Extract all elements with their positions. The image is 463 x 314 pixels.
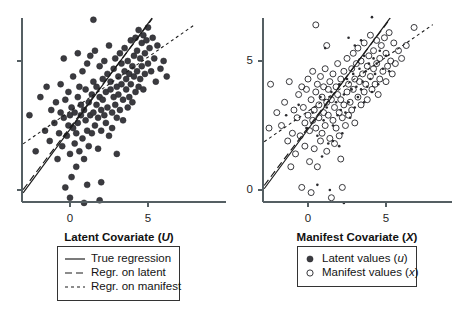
data-point-latent bbox=[51, 120, 57, 126]
left-x-axis-title-suffix: ) bbox=[170, 231, 174, 243]
data-point-latent bbox=[297, 104, 300, 107]
data-point-latent bbox=[324, 47, 327, 50]
data-point-latent bbox=[128, 81, 134, 87]
data-point-latent bbox=[75, 94, 81, 100]
data-point-latent bbox=[125, 58, 131, 64]
data-point-manifest bbox=[322, 66, 328, 72]
data-point-manifest bbox=[350, 50, 356, 56]
data-point-latent bbox=[103, 120, 109, 126]
data-point-latent bbox=[98, 128, 104, 134]
data-point-latent bbox=[378, 49, 381, 52]
data-point-manifest bbox=[313, 125, 319, 131]
data-point-manifest bbox=[268, 81, 274, 87]
data-point-latent bbox=[349, 116, 352, 119]
left-legend-label-regr-on-latent: Regr. on latent bbox=[91, 266, 167, 278]
left-panel: 0 5 Latent Covariate (U) bbox=[17, 17, 226, 243]
data-point-latent bbox=[67, 195, 73, 201]
right-legend-swatch-filled-circle bbox=[307, 256, 313, 262]
data-point-latent bbox=[83, 86, 89, 92]
data-point-manifest bbox=[386, 30, 392, 36]
data-point-latent bbox=[65, 89, 71, 95]
data-point-manifest bbox=[344, 55, 350, 61]
data-point-latent bbox=[101, 112, 107, 118]
data-point-latent bbox=[332, 140, 335, 143]
data-point-manifest bbox=[308, 97, 314, 103]
data-point-latent bbox=[316, 135, 319, 138]
data-point-manifest bbox=[286, 79, 292, 85]
data-point-latent bbox=[385, 55, 388, 58]
scatter-figure: 0 5 Latent Covariate (U) True regression… bbox=[0, 0, 463, 314]
data-point-manifest bbox=[327, 79, 333, 85]
data-point-manifest bbox=[392, 61, 398, 67]
data-point-manifest bbox=[299, 184, 305, 190]
data-point-latent bbox=[369, 78, 372, 81]
right-legend-label-manifest-suffix: ) bbox=[415, 266, 419, 278]
data-point-latent bbox=[48, 107, 54, 113]
data-point-latent bbox=[354, 106, 357, 109]
data-point-latent bbox=[62, 184, 68, 190]
data-point-latent bbox=[140, 86, 146, 92]
data-point-manifest bbox=[274, 110, 280, 116]
left-x-tick-label-5: 5 bbox=[145, 212, 151, 224]
data-point-latent bbox=[151, 55, 157, 61]
data-point-manifest bbox=[324, 148, 330, 154]
data-point-latent bbox=[164, 73, 170, 79]
data-point-manifest bbox=[366, 53, 372, 59]
data-point-manifest bbox=[371, 48, 377, 54]
data-point-latent bbox=[81, 156, 87, 162]
data-point-manifest bbox=[383, 79, 389, 85]
data-point-latent bbox=[148, 68, 154, 74]
data-point-latent bbox=[70, 73, 76, 79]
data-point-manifest bbox=[352, 120, 358, 126]
right-x-axis-title: Manifest Covariate (X) bbox=[297, 231, 418, 243]
data-point-manifest bbox=[381, 35, 387, 41]
data-point-latent bbox=[137, 76, 143, 82]
data-point-latent bbox=[322, 119, 325, 122]
data-point-manifest bbox=[341, 102, 347, 108]
data-point-latent bbox=[117, 50, 123, 56]
data-point-manifest bbox=[313, 89, 319, 95]
data-point-latent bbox=[129, 99, 135, 105]
data-point-latent bbox=[145, 61, 151, 67]
data-point-latent bbox=[56, 130, 62, 136]
data-point-latent bbox=[147, 45, 153, 51]
right-legend-label-latent-suffix: ) bbox=[404, 252, 408, 264]
data-point-latent bbox=[44, 84, 50, 90]
data-point-latent bbox=[86, 143, 92, 149]
data-point-manifest bbox=[403, 43, 409, 49]
data-point-latent bbox=[67, 151, 73, 157]
data-point-latent bbox=[360, 88, 363, 91]
data-point-manifest bbox=[285, 138, 291, 144]
data-point-latent bbox=[81, 200, 87, 206]
data-point-latent bbox=[153, 79, 159, 85]
data-point-manifest bbox=[319, 130, 325, 136]
data-point-manifest bbox=[317, 138, 323, 144]
data-point-latent bbox=[95, 115, 101, 121]
data-point-manifest bbox=[342, 123, 348, 129]
data-point-latent bbox=[321, 155, 324, 158]
data-point-manifest bbox=[302, 120, 308, 126]
data-point-latent bbox=[339, 109, 342, 112]
data-point-latent bbox=[101, 58, 107, 64]
data-point-manifest bbox=[391, 40, 397, 46]
data-point-latent bbox=[112, 102, 118, 108]
data-point-manifest bbox=[325, 112, 331, 118]
data-point-latent bbox=[33, 148, 39, 154]
data-point-manifest bbox=[332, 104, 338, 110]
data-point-latent bbox=[72, 141, 78, 147]
data-point-manifest bbox=[278, 123, 284, 129]
data-point-manifest bbox=[289, 130, 295, 136]
data-point-latent bbox=[344, 111, 347, 114]
data-point-latent bbox=[73, 130, 79, 136]
right-x-axis-title-suffix: ) bbox=[414, 231, 418, 243]
data-point-manifest bbox=[266, 125, 272, 131]
data-point-latent bbox=[122, 45, 128, 51]
data-point-latent bbox=[53, 99, 59, 105]
data-point-latent bbox=[341, 132, 344, 135]
data-point-latent bbox=[377, 83, 380, 86]
data-point-manifest bbox=[303, 86, 309, 92]
data-point-latent bbox=[69, 174, 75, 180]
data-point-latent bbox=[354, 44, 357, 47]
left-x-tick-label-0: 0 bbox=[67, 212, 73, 224]
data-point-manifest bbox=[330, 71, 336, 77]
